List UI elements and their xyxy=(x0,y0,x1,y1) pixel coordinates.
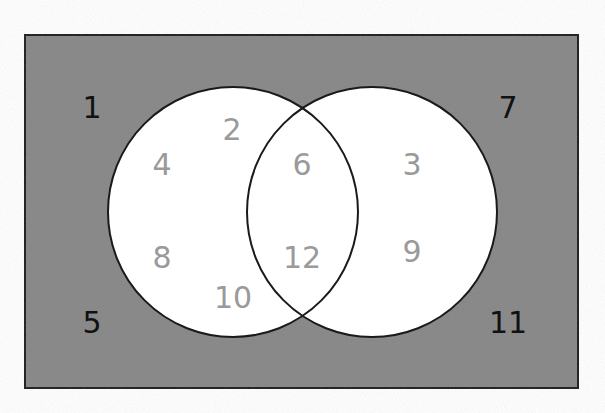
right-only-label: 3 xyxy=(402,147,421,182)
left-only-label: 4 xyxy=(152,147,171,182)
left-only-label: 10 xyxy=(214,280,252,315)
left-only-label: 8 xyxy=(152,240,171,275)
venn-diagram: 175112481061239 xyxy=(0,0,605,413)
intersection-label: 6 xyxy=(292,147,311,182)
outside-label: 1 xyxy=(82,90,101,125)
left-only-label: 2 xyxy=(222,112,241,147)
outside-label: 11 xyxy=(489,305,527,340)
intersection-label: 12 xyxy=(283,240,321,275)
outside-label: 7 xyxy=(498,90,517,125)
outside-label: 5 xyxy=(82,305,101,340)
right-set-fill xyxy=(247,87,497,337)
right-only-label: 9 xyxy=(402,234,421,269)
